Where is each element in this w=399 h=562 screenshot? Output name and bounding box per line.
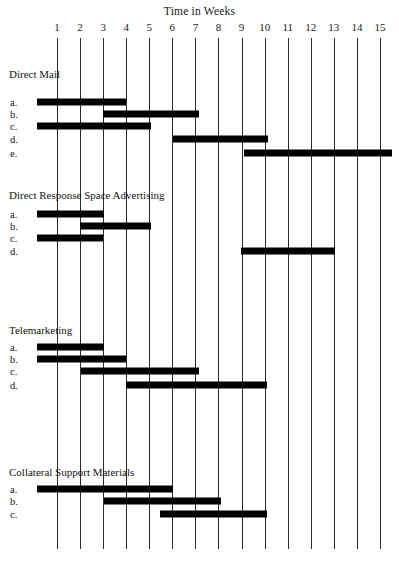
task-bar: [103, 111, 199, 118]
task-bar: [37, 211, 104, 218]
task-bar: [160, 511, 266, 518]
task-bar: [81, 368, 199, 375]
gantt-chart: Time in Weeks 123456789101112131415 Dire…: [0, 0, 399, 562]
task-bar: [37, 344, 104, 351]
task-bars-layer: [0, 0, 399, 562]
task-bar: [37, 123, 151, 130]
task-bar: [126, 382, 266, 389]
task-bar: [37, 99, 126, 106]
task-bar: [173, 136, 267, 143]
task-bar: [241, 248, 335, 255]
task-bar: [244, 150, 392, 157]
task-bar: [37, 235, 103, 242]
task-bar: [80, 223, 151, 230]
task-bar: [104, 498, 221, 505]
task-bar: [37, 356, 126, 363]
task-bar: [37, 486, 173, 493]
